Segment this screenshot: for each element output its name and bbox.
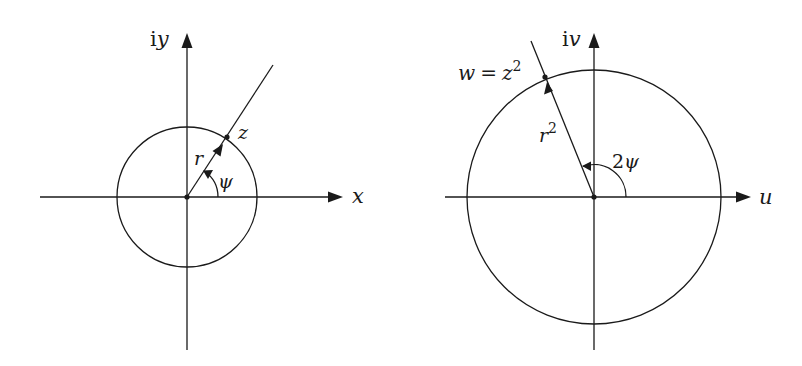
conformal-map-figure: iy x z r ψ iv u w=z2 r2 2ψ (0, 0, 802, 366)
psi-angle-label: ψ (218, 170, 234, 192)
iy-axis-label: iy (150, 27, 170, 51)
iy-axis-arrowhead-icon (182, 33, 193, 48)
two-psi-angle-label: 2ψ (612, 150, 640, 172)
w-ray (531, 41, 594, 197)
w-point-dot (542, 74, 547, 79)
z-point-label: z (237, 121, 249, 143)
z-origin-dot (184, 194, 189, 199)
u-axis-arrowhead-icon (736, 192, 751, 203)
z-point-dot (224, 134, 229, 139)
w-plane-panel: iv u w=z2 r2 2ψ (445, 27, 773, 350)
radius-r2-label: r2 (539, 120, 557, 146)
iv-axis-label: iv (562, 27, 581, 51)
x-axis-label: x (352, 184, 364, 208)
z-plane-panel: iy x z r ψ (40, 27, 364, 350)
iv-axis-arrowhead-icon (589, 33, 600, 48)
radius-r-label: r (194, 147, 205, 169)
x-axis-arrowhead-icon (328, 192, 343, 203)
w-origin-dot (591, 194, 596, 199)
w-equals-z-squared-label: w=z2 (458, 58, 521, 85)
u-axis-label: u (759, 185, 773, 209)
